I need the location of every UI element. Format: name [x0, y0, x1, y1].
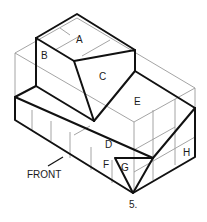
surface-label-c: C — [99, 71, 106, 82]
surface-label-g: G — [121, 162, 129, 173]
surface-label-f: F — [103, 159, 109, 170]
surface-label-e: E — [134, 96, 141, 107]
surface-label-h: H — [183, 147, 190, 158]
figure-number: 5. — [129, 199, 137, 210]
front-label: FRONT — [27, 169, 61, 180]
surface-label-d: D — [105, 139, 112, 150]
surface-label-b: B — [41, 50, 48, 61]
isometric-drawing: A B C D E F G H FRONT 5. — [0, 0, 207, 222]
surface-label-a: A — [76, 34, 83, 45]
